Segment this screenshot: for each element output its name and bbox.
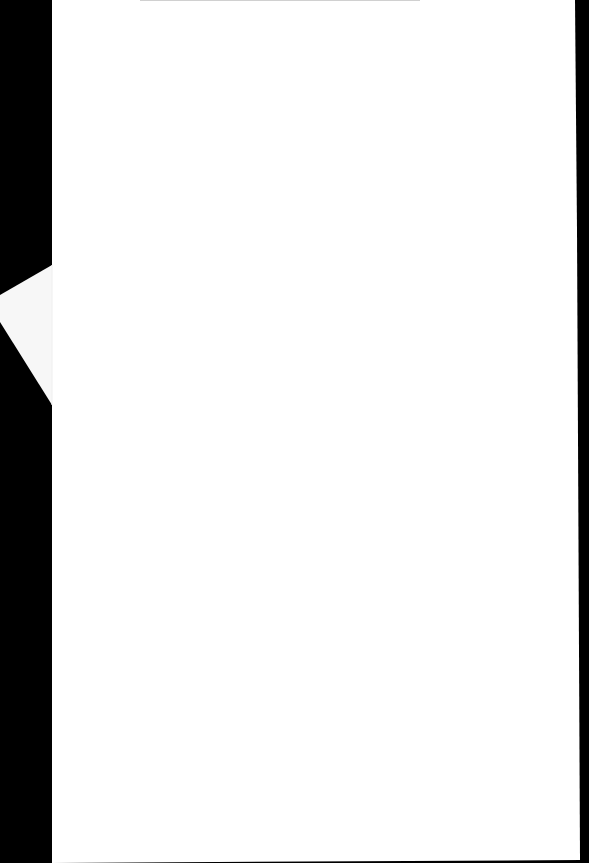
blank-paper-sheet xyxy=(0,0,589,863)
paper-body xyxy=(52,0,580,863)
photo-scene: Blank white sheet of paper photographed … xyxy=(0,0,589,863)
paper-corner-flap xyxy=(0,265,52,405)
